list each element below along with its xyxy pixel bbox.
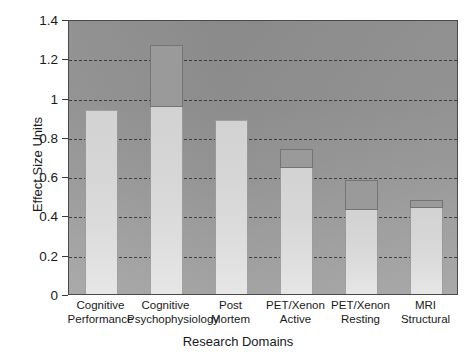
bar [280, 149, 314, 294]
gridline [69, 100, 457, 101]
y-axis-tick-mark [62, 20, 68, 21]
bar [410, 200, 444, 294]
y-axis-tick-mark [62, 216, 68, 217]
y-axis-tick-mark [62, 256, 68, 257]
bar-cap [150, 45, 184, 108]
gridline [69, 257, 457, 258]
plot-area [68, 20, 458, 295]
bar [345, 180, 379, 294]
gridline [69, 139, 457, 140]
y-axis-tick-label: 1.4 [6, 13, 58, 28]
y-axis-tick-mark [62, 59, 68, 60]
y-axis-tick-mark [62, 295, 68, 296]
y-axis-title: Effect Size Units [30, 70, 45, 260]
gridline [69, 60, 457, 61]
y-axis-tick-label: 0 [6, 288, 58, 303]
x-axis-tick-label-line-1: Post [219, 299, 242, 311]
bar-fill [150, 106, 184, 294]
bar-fill [410, 207, 444, 294]
bar-cap [280, 149, 314, 169]
bar-fill [215, 120, 249, 294]
bar-fill [345, 209, 379, 294]
x-axis-tick-label-line-2: Structural [387, 313, 464, 327]
x-axis-tick-label-line-1: PET/Xenon [331, 299, 390, 311]
bar-cap [410, 200, 444, 208]
y-axis-tick-mark [62, 177, 68, 178]
bar [150, 45, 184, 294]
x-axis-tick-label-line-1: PET/Xenon [266, 299, 325, 311]
bar [85, 111, 119, 294]
x-axis-tick-label-line-1: Cognitive [77, 299, 125, 311]
gridline [69, 217, 457, 218]
bar-cap [345, 180, 379, 209]
x-axis-tick-label: MRIStructural [387, 299, 464, 326]
x-axis-tick-label-line-1: MRI [415, 299, 436, 311]
bar-chart-figure: 1.41.210.80.60.40.20 Effect Size Units C… [0, 0, 476, 357]
y-axis-tick-mark [62, 138, 68, 139]
gridline [69, 178, 457, 179]
bar-fill [280, 167, 314, 294]
plot-background-gradient [69, 21, 457, 294]
bar-fill [85, 110, 119, 294]
x-axis-title: Research Domains [0, 334, 476, 349]
bar [215, 121, 249, 294]
y-axis-tick-label: 1.2 [6, 52, 58, 67]
y-axis-tick-mark [62, 99, 68, 100]
x-axis-tick-label-line-1: Cognitive [142, 299, 190, 311]
